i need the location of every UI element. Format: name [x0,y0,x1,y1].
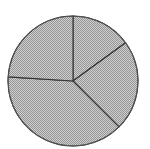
pie-slices: Slice 1: 15%Slice 2: 22.5%Slice 3: 38.5%… [8,16,138,146]
pie-slice-4: Slice 4: 24% [8,16,73,81]
pie-chart: Slice 1: 15%Slice 2: 22.5%Slice 3: 38.5%… [0,0,150,149]
pie-chart-canvas: Slice 1: 15%Slice 2: 22.5%Slice 3: 38.5%… [0,0,150,149]
